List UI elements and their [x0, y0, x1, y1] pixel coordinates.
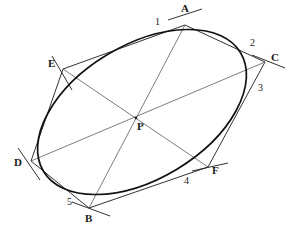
vertex-label-D: D	[14, 157, 22, 168]
vertex-label-C: C	[271, 52, 279, 63]
vertex-label-E: E	[48, 58, 55, 69]
point-P-dot	[135, 117, 138, 120]
tangency-label-4: 4	[184, 176, 189, 186]
side-C-F	[208, 62, 265, 167]
center-point-label-P: P	[137, 121, 144, 132]
vertex-label-A: A	[181, 3, 189, 14]
diagram-canvas: A C F B D E P 1 2 3 4 5	[0, 0, 294, 228]
hexagon-sides	[31, 25, 265, 208]
main-diagonals	[31, 25, 265, 208]
diagonal-C-D	[31, 62, 265, 161]
tangency-label-2: 2	[250, 38, 255, 48]
tangency-label-3: 3	[258, 83, 263, 93]
geometry-figure	[0, 0, 294, 228]
center-point-marker	[135, 117, 138, 120]
vertex-label-B: B	[85, 213, 92, 224]
vertex-label-F: F	[212, 165, 219, 176]
tangency-label-5: 5	[67, 197, 72, 207]
tick-mark-C	[252, 55, 285, 68]
tangency-label-1: 1	[155, 17, 160, 27]
side-B-D	[31, 161, 89, 208]
